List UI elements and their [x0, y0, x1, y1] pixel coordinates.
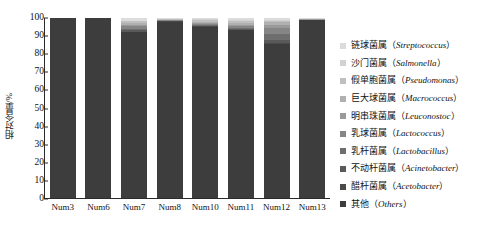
y-tick-label: 90 — [0, 31, 49, 41]
y-tick-label: 20 — [0, 158, 49, 168]
bar-column[interactable]: Num12 — [264, 18, 290, 198]
x-tick-label: Num12 — [263, 202, 290, 212]
x-tick-label: Num10 — [192, 202, 219, 212]
legend-item[interactable]: 醋杆菌属（Acetobacter） — [340, 178, 496, 196]
y-tick-label: 40 — [0, 122, 49, 132]
legend-swatch-icon — [340, 148, 346, 154]
x-tick-label: Num7 — [123, 202, 146, 212]
y-tick-mark — [44, 144, 48, 145]
bar-segment[interactable] — [121, 32, 147, 198]
legend-label: 醋杆菌属（Acetobacter） — [351, 182, 448, 191]
legend-swatch-icon — [340, 43, 346, 49]
legend-item[interactable]: 不动杆菌属（Acinetobacter） — [340, 160, 496, 178]
bar-column[interactable]: Num13 — [299, 18, 325, 198]
y-tick-mark — [44, 36, 48, 37]
bar-column[interactable]: Num3 — [50, 18, 76, 198]
y-tick-label: 50 — [0, 104, 49, 114]
legend-label: 链球菌属（Streptococcus） — [351, 41, 455, 50]
bar-group: Num3Num6Num7Num8Num10Num11Num12Num13 — [45, 18, 330, 198]
x-tick-label: Num3 — [52, 202, 75, 212]
legend-item[interactable]: 乳杆菌属（Lactobacillus） — [340, 143, 496, 161]
y-tick-mark — [44, 126, 48, 127]
y-tick-label: 0 — [0, 194, 49, 204]
legend-item[interactable]: 其他（Others） — [340, 195, 496, 213]
y-tick-label: 60 — [0, 86, 49, 96]
legend-label: 乳杆菌属（Lactobacillus） — [351, 147, 454, 156]
legend-label: 乳球菌属（Lactococcus） — [351, 129, 450, 138]
legend-swatch-icon — [340, 60, 346, 66]
y-tick-mark — [44, 90, 48, 91]
y-tick-label: 80 — [0, 49, 49, 59]
y-tick-mark — [44, 162, 48, 163]
legend-item[interactable]: 巨大球菌属（Macrococcus） — [340, 90, 496, 108]
legend-swatch-icon — [340, 184, 346, 190]
bar-segment[interactable] — [264, 44, 290, 198]
legend-item[interactable]: 链球菌属（Streptococcus） — [340, 37, 496, 55]
y-tick-mark — [44, 180, 48, 181]
bar-column[interactable]: Num7 — [121, 18, 147, 198]
y-tick-mark — [44, 18, 48, 19]
y-tick-label: 30 — [0, 140, 49, 150]
legend-item[interactable]: 乳球菌属（Lactococcus） — [340, 125, 496, 143]
legend-item[interactable]: 假单胞菌属（Pseudomonas） — [340, 72, 496, 90]
y-tick-label: 100 — [0, 13, 49, 23]
bar-column[interactable]: Num11 — [228, 18, 254, 198]
axis-area: Num3Num6Num7Num8Num10Num11Num12Num13 — [44, 18, 330, 199]
bar-segment[interactable] — [192, 27, 218, 198]
legend-label: 假单胞菌属（Pseudomonas） — [351, 76, 464, 85]
legend-swatch-icon — [340, 131, 346, 137]
legend-swatch-icon — [340, 78, 346, 84]
x-tick-label: Num11 — [228, 202, 255, 212]
bar-segment[interactable] — [157, 22, 183, 198]
x-tick-label: Num13 — [299, 202, 326, 212]
legend-swatch-icon — [340, 201, 346, 207]
plot-area: 相对含量/% Num3Num6Num7Num8Num10Num11Num12Nu… — [0, 0, 345, 232]
y-axis-label: 相对含量/% — [2, 93, 15, 139]
legend-item[interactable]: 沙门菌属（Salmonella） — [340, 55, 496, 73]
legend-label: 其他（Others） — [351, 200, 412, 209]
bar-segment[interactable] — [299, 20, 325, 198]
bar-segment[interactable] — [85, 18, 111, 198]
y-tick-label: 70 — [0, 68, 49, 78]
x-tick-label: Num8 — [158, 202, 181, 212]
legend-swatch-icon — [340, 113, 346, 119]
bar-segment[interactable] — [50, 18, 76, 198]
legend-swatch-icon — [340, 96, 346, 102]
x-tick-label: Num6 — [87, 202, 110, 212]
bar-column[interactable]: Num10 — [192, 18, 218, 198]
legend-label: 沙门菌属（Salmonella） — [351, 59, 446, 68]
y-tick-mark — [44, 199, 48, 200]
bar-column[interactable]: Num8 — [157, 18, 183, 198]
y-tick-mark — [44, 72, 48, 73]
bar-segment[interactable] — [228, 30, 254, 198]
legend-label: 明串珠菌属（Leuconostoc） — [351, 112, 460, 121]
y-tick-mark — [44, 108, 48, 109]
y-tick-mark — [44, 54, 48, 55]
legend-swatch-icon — [340, 166, 346, 172]
legend-item[interactable]: 明串珠菌属（Leuconostoc） — [340, 107, 496, 125]
legend-label: 巨大球菌属（Macrococcus） — [351, 94, 462, 103]
bar-column[interactable]: Num6 — [85, 18, 111, 198]
legend-label: 不动杆菌属（Acinetobacter） — [351, 164, 464, 173]
chart-legend: 链球菌属（Streptococcus）沙门菌属（Salmonella）假单胞菌属… — [340, 37, 496, 213]
chart-root: 相对含量/% Num3Num6Num7Num8Num10Num11Num12Nu… — [0, 0, 496, 244]
y-tick-label: 10 — [0, 176, 49, 186]
